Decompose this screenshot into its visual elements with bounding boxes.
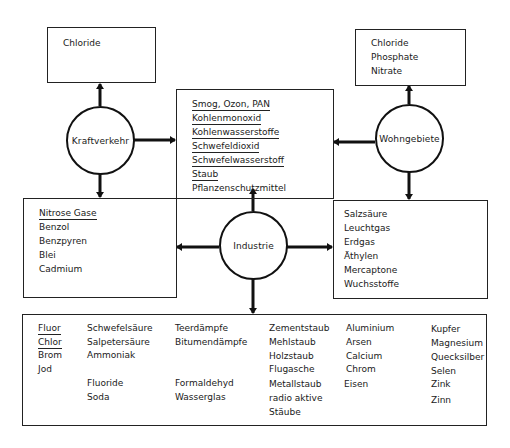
box-item: Jod	[38, 364, 52, 375]
box-item: Ammoniak	[87, 350, 135, 361]
box-item: Calcium	[346, 351, 382, 362]
source-label: Kraftverkehr	[72, 136, 129, 146]
box-item: Chrom	[346, 364, 376, 375]
box-item: radio aktive	[269, 393, 322, 404]
source-residential-node: Wohngebiete	[375, 104, 444, 173]
box-item: Chloride	[371, 38, 408, 49]
box-item: Benzol	[39, 222, 69, 233]
box-item: Selen	[431, 366, 456, 377]
box-item: Salzsäure	[344, 209, 387, 220]
box-item: Wasserglas	[175, 392, 226, 403]
box-item: Zinn	[431, 395, 451, 406]
box-item: Teerdämpfe	[175, 323, 228, 334]
box-item: Mehlstaub	[269, 337, 316, 348]
box-item: Metallstaub	[269, 379, 322, 390]
box-item: Phosphate	[371, 52, 418, 63]
residential-water-box: Chloride Phosphate Nitrate	[355, 29, 466, 86]
box-item: Schwefelwasserstoff	[192, 155, 284, 166]
box-item: Nitrose Gase	[39, 208, 97, 219]
box-item: Fluor	[38, 323, 61, 334]
box-item: Wuchsstoffe	[344, 279, 399, 290]
box-item: Staub	[192, 169, 218, 180]
box-item: Kohlenmonoxid	[192, 113, 261, 124]
air-pollutants-box: Smog, Ozon, PAN Kohlenmonoxid Kohlenwass…	[176, 89, 334, 199]
box-item: Formaldehyd	[175, 378, 234, 389]
box-item: Arsen	[346, 337, 372, 348]
box-item: Brom	[38, 350, 62, 361]
traffic-air-box: Nitrose Gase Benzol Benzpyren Blei Cadmi…	[23, 198, 177, 298]
box-item: Chloride	[63, 38, 100, 49]
box-item: Aluminium	[346, 323, 394, 334]
box-item: Holzstaub	[269, 351, 314, 362]
box-item: Magnesium	[431, 338, 483, 349]
box-item: Cadmium	[39, 264, 82, 275]
source-traffic-node: Kraftverkehr	[66, 106, 135, 175]
source-label: Wohngebiete	[379, 134, 439, 144]
box-item: Schwefeldioxid	[192, 141, 259, 152]
box-item: Leuchtgas	[344, 223, 390, 234]
box-item: Fluoride	[87, 378, 123, 389]
source-industry-node: Industrie	[219, 211, 288, 280]
box-item: Salpetersäure	[87, 337, 150, 348]
industry-substances-box: Fluor Chlor Brom Jod Schwefelsäure Salpe…	[22, 314, 487, 426]
box-item: Flugasche	[269, 364, 315, 375]
box-item: Schwefelsäure	[87, 323, 152, 334]
box-item: Quecksilber	[431, 352, 484, 363]
box-item: Zementstaub	[269, 323, 329, 334]
box-item: Nitrate	[371, 66, 402, 77]
box-item: Soda	[87, 392, 109, 403]
box-item: Zink	[431, 379, 451, 390]
box-item: Äthylen	[344, 251, 378, 262]
box-item: Eisen	[344, 379, 368, 390]
box-item: Benzpyren	[39, 236, 87, 247]
box-item: Pflanzenschutzmittel	[192, 183, 286, 194]
traffic-water-box: Chloride	[47, 27, 156, 83]
box-item: Kohlenwasserstoffe	[192, 127, 279, 138]
box-item: Blei	[39, 250, 56, 261]
box-item: Bitumendämpfe	[175, 337, 247, 348]
source-label: Industrie	[233, 241, 274, 251]
box-item: Chlor	[38, 337, 62, 348]
box-item: Mercaptone	[344, 265, 397, 276]
box-item: Erdgas	[344, 237, 375, 248]
box-item: Smog, Ozon, PAN	[192, 99, 270, 110]
box-item: Stäube	[269, 407, 301, 418]
box-item: Kupfer	[431, 324, 460, 335]
industry-gases-box: Salzsäure Leuchtgas Erdgas Äthylen Merca…	[333, 200, 488, 299]
